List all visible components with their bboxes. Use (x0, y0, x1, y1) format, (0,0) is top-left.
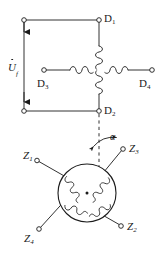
stator-coil-left (70, 67, 93, 74)
stator-coil-upper (96, 46, 103, 69)
stator-coil-right (105, 67, 128, 74)
label-d1: D1 (104, 13, 115, 24)
terminal-z4 (37, 227, 42, 232)
label-z4-sub: 4 (30, 238, 34, 246)
terminal-d4 (150, 68, 155, 73)
label-alpha: α (110, 131, 115, 142)
phasor-letter: U (8, 61, 16, 73)
source-terminal-bottom (22, 109, 27, 114)
label-d2: D2 (104, 105, 115, 116)
label-z3: Z3 (129, 143, 139, 154)
source-voltage-label: Uf (8, 62, 18, 76)
terminal-z1 (35, 158, 40, 163)
label-z3-sub: 3 (135, 148, 139, 156)
label-d1-sub: 1 (112, 18, 116, 26)
label-z2: Z2 (127, 221, 137, 232)
stator-leads (44, 20, 152, 111)
label-d3-text: D (37, 77, 45, 89)
rotor-hub (86, 192, 89, 195)
schematic-figure: Uf D1 D2 D3 D4 α Z1 Z2 Z3 Z4 (0, 0, 160, 261)
label-d2-sub: 2 (112, 110, 116, 118)
terminal-d1 (97, 18, 102, 23)
label-d2-text: D (104, 104, 112, 116)
source-terminal-top (22, 18, 27, 23)
terminal-z2 (119, 224, 124, 229)
label-d1-text: D (104, 12, 112, 24)
terminal-d3 (42, 68, 47, 73)
source-loop (24, 20, 99, 111)
phasor-symbol: U (8, 62, 16, 73)
label-d3-sub: 3 (45, 83, 49, 91)
label-z1: Z1 (23, 150, 33, 161)
stator-coil-lower (96, 71, 103, 94)
label-d4-sub: 4 (147, 83, 151, 91)
label-d4: D4 (139, 78, 150, 89)
terminal-d2 (97, 109, 102, 114)
terminal-z3 (121, 147, 126, 152)
label-z2-sub: 2 (133, 226, 137, 234)
phasor-dot-icon (11, 59, 13, 61)
label-d4-text: D (139, 77, 147, 89)
label-z4: Z4 (24, 233, 34, 244)
label-z1-sub: 1 (29, 155, 33, 163)
phasor-subscript: f (16, 70, 18, 78)
label-d3: D3 (37, 78, 48, 89)
